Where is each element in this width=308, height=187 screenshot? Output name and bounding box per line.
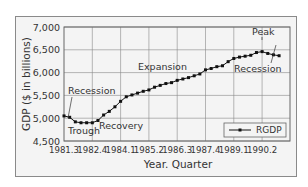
annotation-recession-2: Recession: [234, 63, 281, 74]
data-point-marker: [181, 77, 184, 80]
data-point-marker: [125, 95, 128, 98]
annotation-trough: Trough: [67, 125, 100, 136]
data-point-marker: [113, 105, 116, 108]
legend-label: RGDP: [256, 125, 282, 135]
data-point-marker: [147, 88, 150, 91]
data-point-marker: [91, 121, 94, 124]
data-point-marker: [266, 52, 269, 55]
annotation-expansion: Expansion: [138, 61, 187, 72]
data-point-marker: [187, 76, 190, 79]
data-point-marker: [215, 65, 218, 68]
y-tick-label: 6,500: [33, 44, 60, 55]
data-point-marker: [249, 54, 252, 57]
data-point-marker: [170, 81, 173, 84]
data-point-marker: [153, 86, 156, 89]
legend-marker-icon: [239, 129, 242, 132]
x-tick-label: 1987.4: [190, 145, 220, 155]
data-point-marker: [119, 100, 122, 103]
data-point-marker: [63, 114, 66, 117]
data-point-marker: [238, 56, 241, 59]
line-chart: 7,0006,5006,0005,5005,0004,500 1981.3198…: [0, 0, 308, 187]
y-tick-label: 7,000: [33, 22, 60, 33]
y-tick-label: 5,000: [33, 113, 60, 124]
x-axis-label: Year. Quarter: [143, 158, 213, 170]
data-point-marker: [278, 54, 281, 57]
data-point-marker: [102, 114, 105, 117]
data-point-marker: [136, 92, 139, 95]
data-point-marker: [164, 82, 167, 85]
x-axis-ticks: 1981.31982.41984.11985.21986.31987.41989…: [49, 145, 277, 155]
y-tick-label: 5,500: [33, 90, 60, 101]
data-point-marker: [227, 60, 230, 63]
annotation-recession-1: Recession: [68, 85, 115, 96]
data-point-marker: [261, 50, 264, 53]
x-tick-label: 1985.2: [134, 145, 164, 155]
x-tick-label: 1981.3: [49, 145, 79, 155]
legend: RGDP: [224, 123, 286, 137]
data-point-marker: [210, 67, 213, 70]
x-tick-label: 1989.1: [219, 145, 249, 155]
annotation-pointer: [68, 97, 72, 118]
data-point-marker: [176, 79, 179, 82]
data-point-marker: [221, 64, 224, 67]
y-axis-label: GDP ($ in billions): [20, 37, 32, 131]
annotation-peak: Peak: [252, 26, 275, 37]
data-point-marker: [142, 90, 145, 93]
data-point-marker: [198, 72, 201, 75]
data-point-marker: [79, 121, 82, 124]
x-tick-label: 1982.4: [77, 145, 107, 155]
data-point-marker: [85, 121, 88, 124]
data-point-marker: [204, 68, 207, 71]
data-point-marker: [159, 84, 162, 87]
x-tick-label: 1986.3: [162, 145, 192, 155]
y-tick-label: 6,000: [33, 67, 60, 78]
annotation-recovery: Recovery: [99, 120, 143, 131]
data-point-marker: [232, 57, 235, 60]
data-point-marker: [130, 93, 133, 96]
data-point-marker: [74, 120, 77, 123]
data-point-marker: [255, 51, 258, 54]
data-point-marker: [193, 74, 196, 77]
data-point-marker: [108, 110, 111, 113]
data-point-marker: [244, 55, 247, 58]
x-tick-label: 1990.2: [247, 145, 277, 155]
x-tick-label: 1984.1: [106, 145, 136, 155]
y-axis-ticks: 7,0006,5006,0005,5005,0004,500: [33, 22, 60, 147]
